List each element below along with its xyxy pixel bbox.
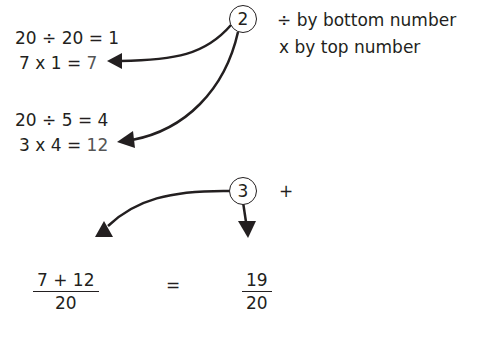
left-fraction: 7 + 12 20 [33, 270, 99, 315]
calc1-multiply-prefix: 7 x 1 = [19, 53, 87, 73]
calc2-multiply-prefix: 3 x 4 = [19, 135, 87, 155]
right-fraction: 19 20 [242, 270, 272, 315]
rule-multiply-label: x by top number [279, 37, 420, 57]
step-2-marker: 2 [229, 5, 257, 33]
calc1-multiply: 7 x 1 = 7 [19, 53, 97, 73]
left-denominator: 20 [33, 292, 99, 315]
operation-plus: + [279, 181, 293, 201]
equals-sign: = [166, 275, 180, 295]
left-numerator: 7 + 12 [33, 270, 99, 292]
arrow-to-right-fraction [243, 202, 246, 222]
calc2-multiply: 3 x 4 = 12 [19, 135, 108, 155]
calc2-divide: 20 ÷ 5 = 4 [15, 110, 108, 130]
arrow-to-calc1 [120, 25, 231, 61]
calc1-result: 7 [87, 53, 98, 73]
step-3-marker: 3 [229, 177, 257, 205]
calc2-result: 12 [87, 135, 109, 155]
calc1-divide: 20 ÷ 20 = 1 [15, 28, 119, 48]
right-numerator: 19 [242, 270, 272, 292]
arrow-to-left-fraction [108, 191, 231, 226]
rule-divide-label: ÷ by bottom number [277, 10, 456, 30]
arrow-to-calc2 [132, 32, 238, 140]
right-denominator: 20 [242, 292, 272, 315]
